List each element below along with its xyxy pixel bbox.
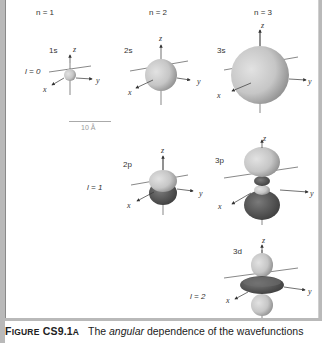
svg-text:z: z — [158, 34, 163, 43]
z-axis-label: z — [72, 45, 77, 54]
orbital-2p: z y x — [126, 146, 203, 215]
svg-text:z: z — [261, 236, 266, 245]
svg-text:y: y — [196, 77, 201, 86]
svg-text:z: z — [260, 21, 265, 30]
figure-caption: FIGURE CS9.1A The angular dependence of … — [5, 321, 322, 343]
figure-label: FIGURE CS9.1A — [5, 325, 79, 337]
svg-text:x: x — [216, 91, 221, 100]
figure-panel: n = 1 n = 2 n = 3 l = 0 l = 1 l = 2 1s 2… — [5, 0, 319, 318]
svg-text:z: z — [160, 146, 165, 155]
svg-text:x: x — [225, 296, 230, 305]
orbital-diagrams: z y x z y x z y x — [6, 0, 318, 318]
caption-text-after: dependence of the wavefunctions — [144, 325, 303, 337]
svg-text:y: y — [307, 77, 312, 86]
svg-text:x: x — [127, 88, 132, 97]
caption-text-before: The — [88, 325, 109, 337]
svg-text:x: x — [126, 201, 131, 210]
svg-text:y: y — [307, 287, 312, 296]
orbital-3s: z y x — [216, 21, 312, 113]
orbital-3p: z y x — [217, 134, 314, 225]
orbital-3d: z y x — [224, 236, 312, 318]
svg-text:z: z — [262, 134, 267, 143]
caption-emphasis: angular — [109, 325, 144, 337]
y-axis-label: y — [95, 76, 100, 85]
svg-text:y: y — [309, 189, 314, 198]
svg-text:y: y — [198, 189, 203, 198]
svg-text:x: x — [217, 202, 222, 211]
x-axis-label: x — [42, 85, 47, 94]
orbital-2s: z y x — [127, 34, 201, 105]
orbital-1s: z y x — [42, 45, 100, 95]
